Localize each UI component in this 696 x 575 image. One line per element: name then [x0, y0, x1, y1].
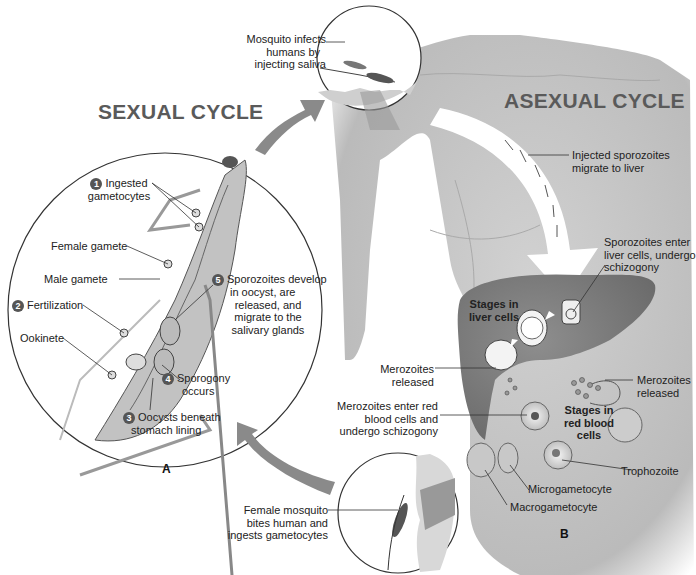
label-merozoites-released-rbc: Merozoites released: [637, 374, 691, 399]
label-line: salivary glands: [212, 324, 324, 337]
step-number-badge: 1: [90, 178, 102, 190]
label-line: Stages in: [562, 404, 616, 417]
label-line: liver cells, undergo: [604, 249, 696, 262]
label-line: Sporogony: [177, 372, 230, 384]
label-female-mosquito-bites: Female mosquito bites human and ingests …: [220, 504, 328, 542]
panel-label-b: B: [560, 527, 569, 541]
sexual-cycle-title: SEXUAL CYCLE: [98, 100, 263, 124]
panel-label-a: A: [162, 462, 171, 476]
label-line: stomach lining: [123, 424, 221, 437]
step-number-badge: 4: [162, 373, 174, 385]
step-number-badge: 3: [123, 412, 135, 424]
label-line: released: [380, 376, 434, 389]
label-merozoites-enter-rbc: Merozoites enter red blood cells and und…: [322, 400, 438, 438]
label-line: Oocysts beneath: [138, 411, 221, 423]
step-3-oocysts: 3Oocysts beneath stomach lining: [123, 411, 221, 437]
label-line: ingests gametocytes: [220, 529, 328, 542]
label-line: released: [637, 387, 691, 400]
label-male-gamete: Male gamete: [44, 273, 108, 286]
label-line: occurs: [162, 385, 230, 398]
label-line: injecting saliva: [234, 58, 326, 71]
label-mosquito-infects: Mosquito infects humans by injecting sal…: [234, 33, 326, 71]
label-line: Sporozoites enter: [604, 236, 696, 249]
step-2-fertilization: 2Fertilization: [12, 299, 83, 312]
label-line: undergo schizogony: [322, 425, 438, 438]
label-line: red blood: [562, 417, 616, 430]
label-line: Ingested: [105, 177, 147, 189]
label-line: Injected sporozoites: [572, 149, 670, 162]
label-line: Mosquito infects: [234, 33, 326, 46]
label-line: blood cells and: [322, 413, 438, 426]
label-line: migrate to liver: [572, 162, 670, 175]
label-line: Female mosquito: [220, 504, 328, 517]
label-line: Merozoites enter red: [322, 400, 438, 413]
label-sporozoites-enter-liver: Sporozoites enter liver cells, undergo s…: [604, 236, 696, 274]
label-line: schizogony: [604, 261, 696, 274]
label-injected-sporozoites: Injected sporozoites migrate to liver: [572, 149, 670, 174]
label-line: Stages in: [468, 298, 520, 311]
label-female-gamete: Female gamete: [51, 240, 127, 253]
step-number-badge: 2: [12, 300, 24, 312]
label-line: in oocyst, are: [212, 286, 324, 299]
bottom-inset-circle: [338, 453, 458, 573]
label-line: cells: [562, 429, 616, 442]
label-line: Sporozoites develop: [227, 273, 327, 285]
label-line: bites human and: [220, 517, 328, 530]
label-merozoites-released-liver: Merozoites released: [380, 363, 434, 388]
label-ookinete: Ookinete: [20, 332, 64, 345]
step-4-sporogony: 4Sporogony occurs: [162, 372, 230, 398]
label-stages-red-blood-cells: Stages in red blood cells: [562, 404, 616, 442]
label-trophozoite: Trophozoite: [621, 465, 679, 478]
label-line: released, and: [212, 299, 324, 312]
label-line: migrate to the: [212, 311, 324, 324]
step-1-ingested-gametocytes: 1Ingested gametocytes: [86, 177, 152, 203]
label-line: Fertilization: [27, 299, 83, 311]
asexual-cycle-title: ASEXUAL CYCLE: [504, 89, 685, 113]
label-line: Merozoites: [637, 374, 691, 387]
label-macrogametocyte: Macrogametocyte: [510, 501, 597, 514]
step-number-badge: 5: [212, 274, 224, 286]
step-5-sporozoites-develop: 5Sporozoites develop in oocyst, are rele…: [212, 273, 324, 336]
label-line: humans by: [234, 46, 326, 59]
label-line: Merozoites: [380, 363, 434, 376]
label-microgametocyte: Microgametocyte: [528, 483, 612, 496]
label-line: liver cells: [468, 311, 520, 324]
label-line: gametocytes: [86, 190, 152, 203]
label-stages-liver-cells: Stages in liver cells: [468, 298, 520, 323]
